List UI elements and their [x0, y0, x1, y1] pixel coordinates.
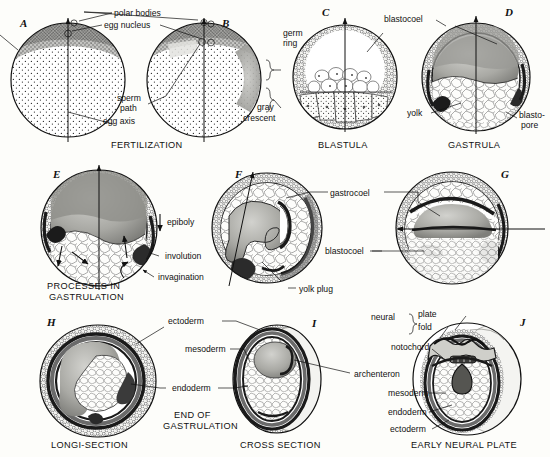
label-endoderm-h: endoderm: [172, 383, 211, 393]
panel-letter-a: A: [19, 17, 27, 29]
panel-letter-e: E: [52, 168, 60, 180]
panel-letter-c: C: [322, 6, 330, 18]
caption-longi-section: LONGI-SECTION: [51, 440, 128, 450]
caption-cross-section: CROSS SECTION: [240, 440, 321, 450]
label-egg-nucleus: egg nucleus: [104, 20, 150, 30]
label-invagination: invagination: [158, 272, 204, 282]
label-gray-crescent-2: crescent: [243, 113, 276, 123]
label-notochord: notochord: [391, 342, 429, 352]
label-yolk-plug: yolk plug: [299, 284, 333, 294]
label-gastrocoel: gastrocoel: [330, 188, 370, 198]
panel-letter-d: D: [504, 6, 513, 18]
embryology-figure: A B: [0, 0, 550, 457]
label-blastopore-2: pore: [521, 120, 538, 130]
panel-letter-g: G: [501, 168, 509, 180]
caption-fertilization: FERTILIZATION: [111, 140, 183, 150]
label-epiboly: epiboly: [167, 217, 195, 227]
panel-letter-b: B: [221, 17, 229, 29]
caption-processes-1: PROCESSES IN: [47, 281, 120, 291]
label-yolk: yolk: [407, 108, 423, 118]
figure-canvas: A B: [0, 0, 550, 457]
label-involution: involution: [165, 251, 202, 261]
label-germ-ring-1: germ: [283, 28, 303, 38]
label-ectoderm-h: ectoderm: [168, 316, 204, 326]
label-egg-axis: egg axis: [103, 116, 135, 126]
label-blastocoel-g: blastocoel: [325, 246, 364, 256]
label-gray-crescent-1: gray: [257, 102, 274, 112]
label-polar-bodies: polar bodies: [114, 8, 161, 18]
label-mesoderm-i: mesoderm: [185, 344, 226, 354]
caption-end-of-1: END OF: [174, 410, 211, 420]
panel-letter-j: J: [519, 316, 526, 328]
panel-letter-f: F: [234, 168, 243, 180]
label-archenteron: archenteron: [354, 369, 400, 379]
caption-gastrula: GASTRULA: [448, 140, 501, 150]
panel-letter-h: H: [46, 316, 56, 328]
label-neural-plate: plate: [418, 309, 437, 319]
caption-early-neural-plate: EARLY NEURAL PLATE: [411, 440, 517, 450]
label-neural: neural: [371, 312, 395, 322]
caption-end-of-2: GASTRULATION: [163, 421, 238, 431]
label-sperm-path-2: path: [120, 103, 137, 113]
label-sperm-path-1: sperm: [117, 93, 141, 103]
panel-letter-i: I: [311, 317, 317, 329]
label-blastocoel-c: blastocoel: [384, 14, 423, 24]
label-endoderm-j: endoderm: [388, 407, 427, 417]
label-neural-fold: fold: [418, 322, 432, 332]
caption-processes-2: GASTRULATION: [49, 292, 124, 302]
label-blastopore-1: blasto-: [519, 110, 545, 120]
label-ectoderm-j: ectoderm: [390, 424, 426, 434]
label-mesoderm-j: mesoderm: [388, 388, 429, 398]
caption-blastula: BLASTULA: [318, 140, 368, 150]
label-germ-ring-2: ring: [283, 38, 298, 48]
